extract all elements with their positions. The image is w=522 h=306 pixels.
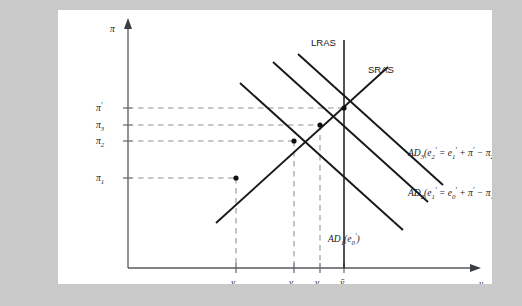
y-tick-label-pi-3: π3 bbox=[96, 120, 105, 132]
x-tick-label-y-bar: ȳ bbox=[339, 278, 345, 284]
x-tick-label-y-3: y3 bbox=[314, 278, 323, 284]
guide-lines bbox=[128, 108, 344, 268]
y-tick-label-pi-2: π2 bbox=[96, 136, 105, 148]
sras-curve bbox=[216, 67, 388, 223]
y-axis-label: π bbox=[110, 24, 115, 34]
equilibrium-point-3 bbox=[317, 122, 322, 127]
equilibrium-point-1 bbox=[233, 175, 238, 180]
equilibrium-point-2 bbox=[291, 138, 296, 143]
x-tick-label-y-2: y2 bbox=[288, 278, 297, 284]
ad2-label: AD2(e1′ = e0′ + π′ − π1) bbox=[407, 186, 492, 200]
ad3-label: AD3(e2′ = e1′ + π′ − π2) bbox=[407, 146, 492, 160]
economics-chart: π y π′ π3 π2 π1 y1 y2 y3 ȳ LRAS SRAS AD3… bbox=[58, 10, 492, 284]
ad1-curve bbox=[240, 83, 394, 222]
equilibrium-points bbox=[233, 105, 346, 180]
y-axis-arrowhead bbox=[124, 18, 132, 29]
y-tick-label-pi-prime: π′ bbox=[96, 101, 103, 113]
sras-label: SRAS bbox=[368, 64, 394, 75]
ad1-label: AD1(e0′) bbox=[327, 232, 360, 246]
x-tick-label-y-1: y1 bbox=[230, 278, 239, 284]
x-axis-arrowhead bbox=[470, 264, 481, 272]
chart-panel: π y π′ π3 π2 π1 y1 y2 y3 ȳ LRAS SRAS AD3… bbox=[58, 10, 492, 284]
y-tick-label-pi-1: π1 bbox=[96, 173, 104, 185]
equilibrium-point-4 bbox=[341, 105, 346, 110]
ad2-curve bbox=[273, 62, 428, 202]
lras-label: LRAS bbox=[311, 37, 336, 48]
label-leader-lines bbox=[394, 222, 403, 230]
x-axis-label: y bbox=[478, 279, 484, 284]
figure-root: π y π′ π3 π2 π1 y1 y2 y3 ȳ LRAS SRAS AD3… bbox=[0, 0, 522, 306]
ad1-leader-line bbox=[394, 222, 403, 230]
